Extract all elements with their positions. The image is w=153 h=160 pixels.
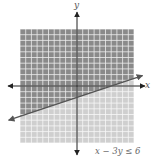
inequality-label: x − 3y ≤ 6: [95, 146, 140, 156]
y-axis-label: y: [74, 0, 79, 10]
inequality-chart: [0, 0, 153, 160]
x-axis-label: x: [145, 80, 150, 90]
